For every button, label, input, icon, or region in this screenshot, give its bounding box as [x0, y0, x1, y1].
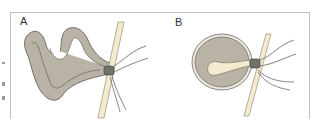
- diagram-illustration: [0, 0, 314, 121]
- panel-label-a: A: [20, 15, 27, 27]
- vessel-a-lower: [110, 76, 126, 112]
- vessel-b-lower: [258, 70, 294, 90]
- constriction-b: [250, 59, 260, 68]
- panel-a-bowel: [25, 28, 111, 101]
- panel-b-bowel: [192, 34, 252, 90]
- vessel-a: [114, 46, 148, 72]
- constriction-a: [104, 66, 114, 75]
- panel-label-b: B: [175, 16, 182, 28]
